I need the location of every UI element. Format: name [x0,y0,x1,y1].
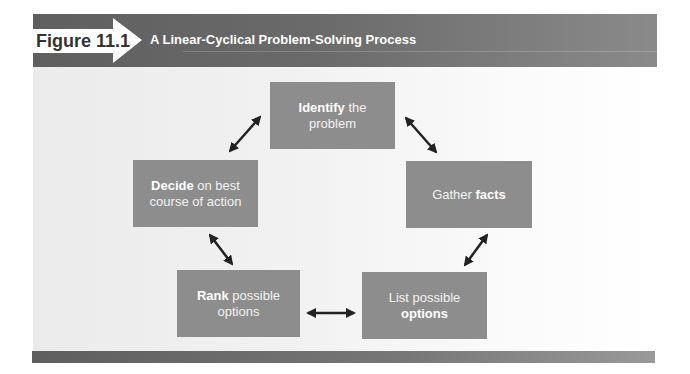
figure-footer-bar [32,351,655,363]
arrow-rank-decide-icon [0,0,690,374]
